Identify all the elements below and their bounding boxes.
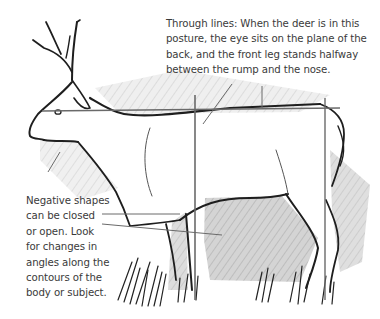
caption-line: between the rump and the nose. <box>166 62 372 77</box>
caption-line: for changes in <box>26 239 116 254</box>
caption-line: Through lines: When the deer is in this <box>166 16 372 31</box>
caption-line: back, and the front leg stands halfway <box>166 47 372 62</box>
caption-line: Negative shapes <box>26 193 116 208</box>
caption-line: angles along the <box>26 255 116 270</box>
negative-shapes-caption: Negative shapes can be closed or open. L… <box>26 193 116 301</box>
caption-line: contours of the <box>26 270 116 285</box>
caption-line: can be closed <box>26 208 116 223</box>
caption-line: or open. Look <box>26 224 116 239</box>
caption-line: posture, the eye sits on the plane of th… <box>166 31 372 46</box>
through-lines-caption: Through lines: When the deer is in this … <box>166 16 372 78</box>
caption-line: body or subject. <box>26 285 116 300</box>
